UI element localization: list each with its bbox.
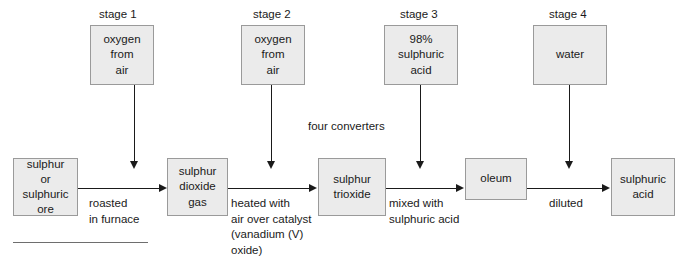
process-box-sulphur-trioxide: sulphur trioxide bbox=[318, 158, 386, 216]
annotation-four-converters: four converters bbox=[308, 119, 385, 135]
arrow-line-ore-to-dioxide bbox=[78, 188, 160, 189]
stage-label-2: stage 2 bbox=[253, 8, 291, 20]
bottom-divider bbox=[13, 242, 148, 243]
stage-label-3: stage 3 bbox=[400, 8, 438, 20]
arrow-line-dioxide-to-trioxide bbox=[228, 188, 310, 189]
arrow-line-stage-3 bbox=[420, 85, 421, 163]
caption-heated-with-air: heated with air over catalyst (vanadium … bbox=[231, 196, 312, 258]
arrow-head-stage-2 bbox=[267, 161, 275, 169]
stage-label-4: stage 4 bbox=[549, 8, 587, 20]
input-box-water: water bbox=[533, 25, 607, 85]
process-box-sulphuric-acid: sulphuric acid bbox=[611, 158, 675, 216]
arrow-head-trioxide-to-oleum bbox=[456, 184, 464, 192]
arrow-head-dioxide-to-trioxide bbox=[309, 184, 317, 192]
arrow-head-stage-1 bbox=[130, 161, 138, 169]
diagram-canvas: stage 1 stage 2 stage 3 stage 4 oxygen f… bbox=[0, 0, 684, 258]
input-box-oxygen-2: oxygen from air bbox=[241, 25, 305, 85]
arrow-head-oleum-to-acid bbox=[602, 184, 610, 192]
stage-label-1: stage 1 bbox=[99, 8, 137, 20]
arrow-line-stage-4 bbox=[569, 85, 570, 163]
arrow-line-stage-2 bbox=[271, 85, 272, 163]
process-box-sulphur-dioxide-gas: sulphur dioxide gas bbox=[167, 158, 228, 216]
arrow-head-stage-4 bbox=[565, 161, 573, 169]
process-box-sulphur-ore: sulphur or sulphuric ore bbox=[13, 158, 78, 216]
process-box-oleum: oleum bbox=[465, 158, 527, 200]
caption-mixed-with-sulphuric-acid: mixed with sulphuric acid bbox=[389, 196, 459, 227]
caption-roasted-in-furnace: roasted in furnace bbox=[89, 196, 140, 227]
arrow-line-stage-1 bbox=[134, 85, 135, 163]
arrow-head-stage-3 bbox=[416, 161, 424, 169]
arrow-head-ore-to-dioxide bbox=[159, 184, 167, 192]
arrow-line-oleum-to-acid bbox=[527, 188, 603, 189]
arrow-line-trioxide-to-oleum bbox=[386, 188, 457, 189]
input-box-oxygen-1: oxygen from air bbox=[90, 25, 154, 85]
input-box-sulphuric-acid-98: 98% sulphuric acid bbox=[384, 25, 458, 85]
caption-diluted: diluted bbox=[549, 196, 583, 212]
